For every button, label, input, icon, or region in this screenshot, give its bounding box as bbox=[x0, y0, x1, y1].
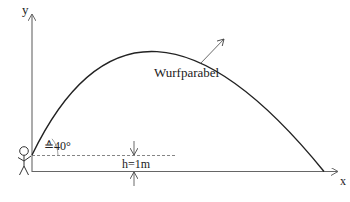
x-axis-label: x bbox=[340, 174, 346, 188]
projectile-diagram: y x ≙40° Wurfparabel h=1m bbox=[0, 0, 350, 202]
angle-label: ≙40° bbox=[44, 139, 71, 153]
height-label: h=1m bbox=[122, 157, 151, 171]
y-axis-label: y bbox=[22, 2, 29, 17]
curve-label-pointer bbox=[200, 39, 224, 64]
curve-label: Wurfparabel bbox=[154, 65, 220, 80]
stick-figure-icon bbox=[18, 147, 31, 175]
